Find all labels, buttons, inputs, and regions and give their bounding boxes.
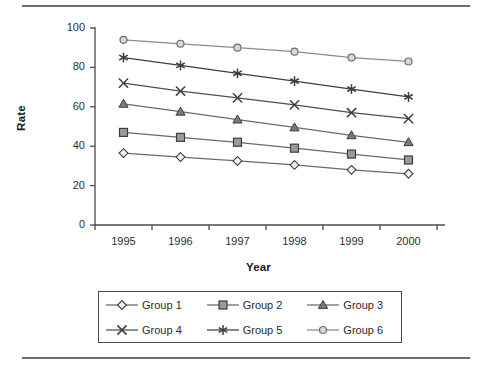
legend-marker-diamond-open [105, 298, 139, 312]
x-tick-label: 1999 [325, 235, 379, 247]
legend-label: Group 5 [243, 324, 283, 336]
y-tick-label: 60 [47, 100, 85, 112]
legend-item-6[interactable]: Group 6 [300, 323, 401, 337]
series-4 [119, 79, 413, 124]
marker-circle [405, 58, 412, 65]
marker-diamond [404, 169, 413, 178]
legend-item-1[interactable]: Group 1 [99, 298, 200, 312]
series-2 [120, 128, 413, 164]
y-tick-label: 80 [47, 60, 85, 72]
series-5 [119, 53, 412, 102]
series-6 [120, 36, 412, 65]
marker-circle [177, 40, 184, 47]
y-tick-label: 40 [47, 139, 85, 151]
marker-diamond [119, 149, 128, 158]
marker-square [234, 138, 242, 146]
marker-square [219, 301, 227, 309]
marker-circle [348, 54, 355, 61]
marker-triangle [119, 99, 128, 107]
legend-label: Group 3 [343, 299, 383, 311]
legend-item-5[interactable]: Group 5 [200, 323, 301, 337]
legend-marker-circle-open [306, 323, 340, 337]
marker-circle [320, 326, 327, 333]
x-tick-label: 2000 [382, 235, 436, 247]
series-line [124, 153, 409, 174]
marker-square [120, 128, 128, 136]
marker-circle [234, 44, 241, 51]
marker-square [348, 150, 356, 158]
y-tick-label: 100 [47, 21, 85, 33]
x-tick-label: 1996 [154, 235, 208, 247]
legend-marker-x-cross [105, 323, 139, 337]
marker-square [177, 133, 185, 141]
series-1 [119, 149, 413, 178]
series-line [124, 83, 409, 118]
legend-item-2[interactable]: Group 2 [200, 298, 301, 312]
x-axis-title: Year [0, 261, 491, 273]
marker-square [291, 144, 299, 152]
x-tick-label: 1995 [97, 235, 151, 247]
marker-diamond [176, 153, 185, 162]
marker-diamond [233, 157, 242, 166]
legend: Group 1Group 2Group 3Group 4Group 5Group… [98, 291, 402, 343]
marker-circle [291, 48, 298, 55]
legend-label: Group 4 [142, 324, 182, 336]
x-tick-label: 1997 [211, 235, 265, 247]
legend-label: Group 1 [142, 299, 182, 311]
legend-marker-square-filled [206, 298, 240, 312]
legend-item-3[interactable]: Group 3 [300, 298, 401, 312]
marker-square [405, 156, 413, 164]
y-tick-label: 0 [47, 218, 85, 230]
marker-circle [120, 36, 127, 43]
marker-diamond [118, 300, 127, 309]
series-line [124, 58, 409, 97]
y-tick-label: 20 [47, 179, 85, 191]
legend-marker-triangle-filled [306, 298, 340, 312]
x-tick-label: 1998 [268, 235, 322, 247]
legend-marker-asterisk-star [206, 323, 240, 337]
marker-diamond [347, 165, 356, 174]
legend-label: Group 6 [343, 324, 383, 336]
marker-diamond [290, 161, 299, 170]
legend-label: Group 2 [243, 299, 283, 311]
series-line [124, 40, 409, 62]
figure: Rate Year 020406080100 19951996199719981… [0, 0, 491, 370]
legend-item-4[interactable]: Group 4 [99, 323, 200, 337]
series-3 [119, 99, 413, 145]
y-axis-title: Rate [15, 88, 27, 148]
